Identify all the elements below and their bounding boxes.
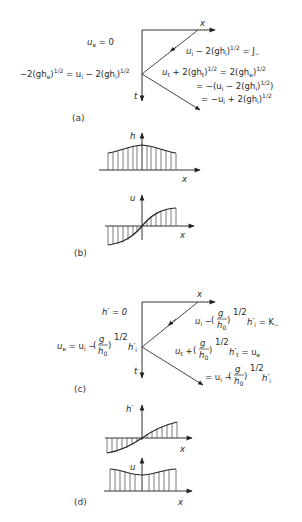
reflection-eq-left-a: −2(ghe)1/2 = ui − 2(ghi)1/2 <box>20 67 130 80</box>
svg-text:h′i: h′i <box>262 373 271 384</box>
x-axis-label-b-bottom: x <box>179 230 186 240</box>
t-axis-label-c: t <box>134 366 138 376</box>
panel-c-characteristics: x t h′ = 0 ue = ui − ( g h0 ) 1/2 h′i ui… <box>57 289 279 394</box>
svg-text:h′i = K−: h′i = K− <box>247 317 279 328</box>
svg-text:ut +: ut + <box>175 346 193 357</box>
svg-text:ui −: ui − <box>195 316 212 327</box>
x-axis-label-d-top: x <box>179 444 186 454</box>
hatching-u-d <box>110 469 176 491</box>
characteristic-arrow-icon <box>172 47 176 50</box>
reflected-eq-line2-c: = ui − ( g h0 ) 1/2 h′i <box>205 363 271 387</box>
svg-text:h′t = ue: h′t = ue <box>229 347 261 358</box>
svg-text:): ) <box>227 315 230 325</box>
svg-text:h′i: h′i <box>128 342 137 353</box>
reflected-eq-line3-a: = −ui + 2(ghi)1/2 <box>201 92 272 105</box>
x-axis-label-b-top: x <box>181 174 188 184</box>
svg-text:1/2: 1/2 <box>233 307 247 317</box>
svg-text:1/2: 1/2 <box>215 337 229 347</box>
riemann-invariant-a: ui − 2(ghi)1/2 = J− <box>186 44 260 57</box>
panel-label-a: (a) <box>72 113 85 123</box>
panel-b-profiles: h x u x <box>74 131 200 258</box>
svg-text:h0: h0 <box>234 376 243 387</box>
panel-d-profiles: h′ x u x (d) <box>74 404 192 507</box>
h-profile-plot-b: h x <box>99 131 200 184</box>
svg-text:1/2: 1/2 <box>250 363 264 373</box>
svg-text:h0: h0 <box>199 350 208 361</box>
u-axis-label-d: u <box>130 462 135 472</box>
svg-text:(: ( <box>93 340 96 350</box>
panel-label-b: (b) <box>74 248 87 258</box>
svg-text:g: g <box>200 338 206 348</box>
svg-text:): ) <box>244 371 247 381</box>
u-profile-plot-d: u x <box>104 458 192 507</box>
panel-label-c: (c) <box>74 384 86 394</box>
svg-text:(: ( <box>228 371 231 381</box>
boundary-condition-c: h′ = 0 <box>102 307 127 317</box>
svg-text:g: g <box>218 308 224 318</box>
svg-text:(: ( <box>211 315 214 325</box>
reflected-eq-a: ut + 2(ght)1/2 = 2(ghe)1/2 <box>162 65 266 78</box>
svg-text:(: ( <box>193 345 196 355</box>
x-axis-label-a: x <box>199 18 206 28</box>
figure-canvas: x t ue = 0 −2(ghe)1/2 = ui − 2(ghi)1/2 u… <box>0 0 302 522</box>
u-axis-label-b: u <box>130 193 135 203</box>
u-profile-plot-b: u x <box>105 193 194 245</box>
hprime-profile-plot-d: h′ x <box>105 404 192 454</box>
riemann-invariant-c: ui − ( g h0 ) 1/2 h′i = K− <box>195 307 279 331</box>
hprime-axis-label-d: h′ <box>126 404 133 414</box>
svg-text:1/2: 1/2 <box>114 332 128 342</box>
t-axis-label-a: t <box>134 91 138 101</box>
x-axis-label-c: x <box>196 289 203 299</box>
reflected-eq-c: ut + ( g h0 ) 1/2 h′t = ue <box>175 337 261 361</box>
svg-text:g: g <box>99 334 105 344</box>
panel-label-d: (d) <box>74 497 87 507</box>
svg-text:h0: h0 <box>217 320 226 331</box>
reflected-eq-line2-a: = −(ui − 2(ghi)1/2) <box>196 79 273 92</box>
incoming-characteristic-c <box>142 302 198 347</box>
h-axis-label-b: h <box>130 131 135 141</box>
panel-a-characteristics: x t ue = 0 −2(ghe)1/2 = ui − 2(ghi)1/2 u… <box>20 18 273 123</box>
svg-text:g: g <box>235 364 241 374</box>
svg-text:h0: h0 <box>98 346 107 357</box>
svg-text:): ) <box>108 340 111 350</box>
svg-text:ue = ui −: ue = ui − <box>57 341 96 352</box>
characteristic-arrow-icon <box>170 319 176 324</box>
x-axis-label-d-bottom: x <box>177 497 184 507</box>
reflection-eq-left-c: ue = ui − ( g h0 ) 1/2 h′i <box>57 332 137 357</box>
boundary-condition-a: ue = 0 <box>87 37 114 48</box>
svg-text:): ) <box>209 345 212 355</box>
reflected-characteristic-a <box>142 74 200 110</box>
